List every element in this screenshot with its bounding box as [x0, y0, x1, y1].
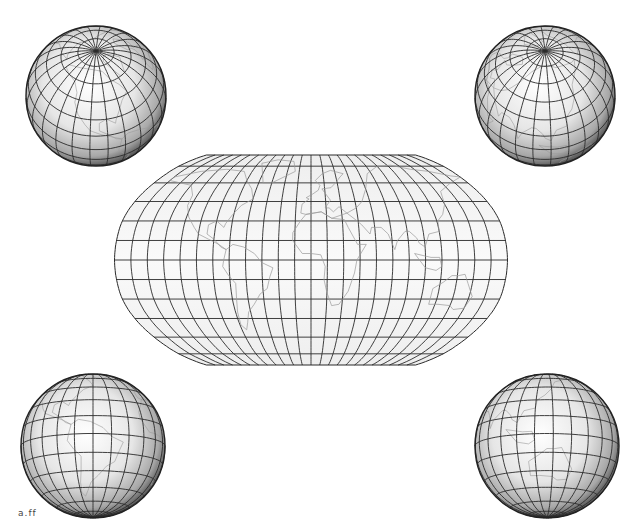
map-figure: a.ff — [0, 0, 638, 523]
globe-bottom-right — [475, 374, 619, 518]
watermark-text: a.ff — [18, 508, 37, 518]
globe-bottom-left — [21, 374, 165, 518]
globe-top-right — [475, 26, 615, 166]
globe-top-left — [26, 26, 166, 166]
robinson-world-map — [115, 155, 508, 365]
